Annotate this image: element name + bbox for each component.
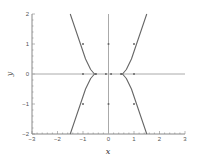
- y-tick-label: 2: [26, 11, 30, 17]
- arrow-marker: [133, 43, 135, 45]
- arrow-marker: [110, 73, 112, 75]
- arrow-marker: [133, 73, 135, 75]
- arrow-marker: [105, 73, 107, 75]
- x-axis-label: x: [106, 147, 111, 156]
- axes: −3−2−10123−2−1012: [22, 11, 187, 142]
- arrow-marker: [95, 73, 97, 75]
- y-tick-label: −1: [22, 101, 30, 107]
- phase-portrait-chart: −3−2−10123−2−1012 x y: [0, 0, 197, 159]
- x-tick-label: −1: [80, 136, 88, 142]
- y-tick-label: 0: [26, 71, 30, 77]
- x-tick-label: 2: [158, 136, 162, 142]
- y-axis-label: y: [5, 71, 14, 77]
- x-tick-label: 3: [183, 136, 187, 142]
- arrow-marker: [133, 103, 135, 105]
- x-tick-label: −3: [29, 136, 37, 142]
- x-tick-label: 0: [107, 136, 111, 142]
- arrow-marker: [108, 43, 110, 45]
- arrow-marker: [108, 103, 110, 105]
- arrow-marker: [82, 103, 84, 105]
- x-tick-label: 1: [132, 136, 136, 142]
- series-group: [32, 14, 185, 134]
- arrow-marker: [82, 73, 84, 75]
- y-tick-label: −2: [22, 131, 30, 137]
- arrow-marker: [82, 43, 84, 45]
- y-tick-label: 1: [26, 41, 30, 47]
- arrow-marker: [120, 73, 122, 75]
- x-tick-label: −2: [54, 136, 62, 142]
